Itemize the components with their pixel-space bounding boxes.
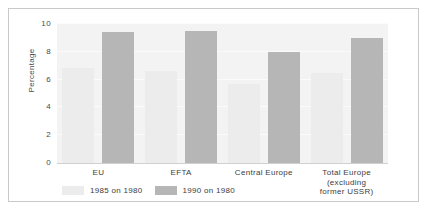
x-axis-tick-label-line: former USSR) [302,187,392,197]
bar [185,31,217,163]
y-axis-tick-label: 10 [11,19,51,28]
x-axis-tick-label-line: Central Europe [219,168,309,178]
x-axis-tick-label: Total Europe(excludingformer USSR) [302,168,392,197]
bar [268,52,300,163]
x-axis-tick-label: Central Europe [219,168,309,178]
bar [62,68,94,163]
x-axis-tick-label-line: EFTA [136,168,226,178]
bar [311,73,343,163]
legend-label: 1990 on 1980 [183,186,236,195]
chart-figure: Percentage 0246810 EUEFTACentral EuropeT… [0,0,429,212]
legend-entry: 1990 on 1980 [155,186,236,195]
plot-area [57,24,388,163]
chart-legend: 1985 on 19801990 on 1980 [62,186,235,195]
gridline [57,23,388,24]
bar [228,84,260,163]
x-axis-tick-label-line: EU [53,168,143,178]
x-axis-tick-label: EFTA [136,168,226,178]
bar [145,71,177,163]
x-axis-tick-label: EU [53,168,143,178]
y-axis-tick-label: 6 [11,75,51,84]
x-axis-tick-label-line: Total Europe [302,168,392,178]
y-axis-tick-label: 4 [11,102,51,111]
legend-swatch [62,186,84,195]
y-axis-tick-label: 0 [11,158,51,167]
x-axis-line [57,163,388,164]
x-axis-tick-label-line: (excluding [302,178,392,188]
y-axis-tick-label: 2 [11,130,51,139]
bar [102,32,134,163]
legend-label: 1985 on 1980 [90,186,143,195]
bar [351,38,383,163]
legend-entry: 1985 on 1980 [62,186,143,195]
y-axis-tick-label: 8 [11,47,51,56]
legend-swatch [155,186,177,195]
